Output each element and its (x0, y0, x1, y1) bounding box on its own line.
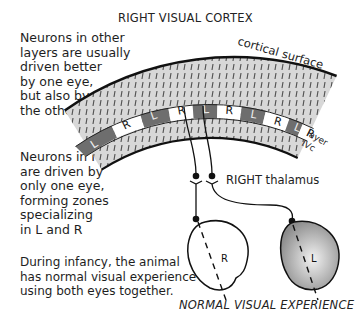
eye-right-label: R (221, 253, 228, 264)
thalamus-label: RIGHT thalamus (226, 173, 319, 187)
svg-text:R: R (225, 104, 234, 118)
eye-left-label: L (311, 253, 317, 264)
cortex-diagram: L R L R L R L R L R R L (0, 0, 363, 322)
thalamus-cell-right (190, 181, 202, 218)
caption: NORMAL VISUAL EXPERIENCE (179, 298, 354, 312)
left-eye (281, 221, 339, 289)
